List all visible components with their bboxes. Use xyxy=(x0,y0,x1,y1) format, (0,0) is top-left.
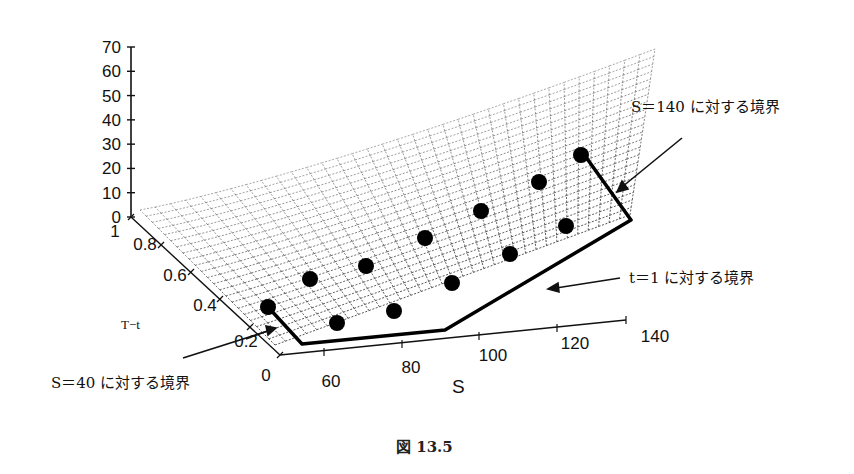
surface-mesh xyxy=(140,49,655,345)
z-tick-label: 60 xyxy=(102,62,121,81)
boundary-dots xyxy=(260,147,589,331)
s-tick-label: 80 xyxy=(402,358,421,377)
boundary-dot xyxy=(386,303,402,319)
s-tick-label: 100 xyxy=(479,346,507,365)
annotation-s140: S＝140 に対する境界 xyxy=(631,98,780,116)
z-axis: 010203040506070 xyxy=(102,38,135,227)
annotation-t1: t＝1 に対する境界 xyxy=(629,269,754,287)
t-axis-title: T−t xyxy=(121,317,140,332)
boundary-dot xyxy=(531,174,547,190)
boundary-dot xyxy=(573,147,589,163)
s-tick-label: 140 xyxy=(641,327,669,346)
boundary-dot xyxy=(473,203,489,219)
boundary-dot xyxy=(558,218,574,234)
t-axis: 00.20.40.60.81 xyxy=(110,214,283,385)
s-tick-label: 120 xyxy=(561,334,589,353)
z-tick-label: 50 xyxy=(102,87,121,106)
t-tick-label: 0 xyxy=(261,366,270,385)
boundary-dot xyxy=(302,271,318,287)
z-tick-label: 30 xyxy=(102,135,121,154)
t-tick-label: 0.4 xyxy=(193,296,217,315)
boundary-dot xyxy=(358,258,374,274)
annotation-s40: S＝40 に対する境界 xyxy=(51,374,190,392)
z-tick-label: 40 xyxy=(102,111,121,130)
s-tick-label: 60 xyxy=(322,372,341,391)
surface-chart: 010203040506070 00.20.40.60.81 608010012… xyxy=(0,0,854,474)
annotation-arrows xyxy=(183,138,682,358)
figure-caption: 図 13.5 xyxy=(396,438,453,456)
z-tick-label: 10 xyxy=(102,184,121,203)
boundary-dot xyxy=(260,299,276,315)
boundary-dot xyxy=(417,230,433,246)
t-tick-label: 1 xyxy=(110,222,119,241)
boundary-dot xyxy=(444,275,460,291)
z-tick-label: 20 xyxy=(102,159,121,178)
exercise-boundary-line xyxy=(268,153,631,344)
t-tick-label: 0.8 xyxy=(133,235,157,254)
boundary-dot xyxy=(502,246,518,262)
boundary-dot xyxy=(329,315,345,331)
t-tick-label: 0.6 xyxy=(163,266,187,285)
s-axis-title: S xyxy=(452,376,465,397)
z-tick-label: 70 xyxy=(102,38,121,57)
